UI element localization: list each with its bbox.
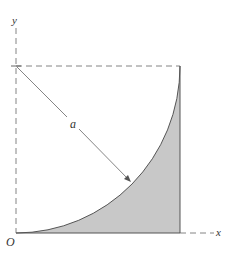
y-axis-label: y: [11, 14, 17, 26]
origin-label: O: [6, 235, 15, 249]
diagram: y x O a: [0, 0, 237, 255]
radius-line-2: [79, 129, 129, 180]
radius-label: a: [70, 117, 76, 131]
x-axis-label: x: [215, 226, 221, 238]
radius-line: [17, 67, 67, 117]
